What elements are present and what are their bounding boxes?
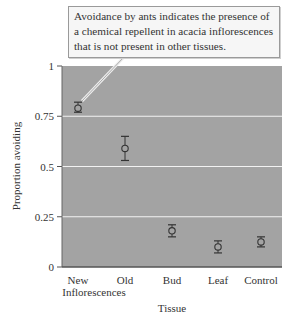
x-tick-label: Inflorescences — [62, 286, 126, 298]
x-tick-label: Old — [117, 274, 134, 286]
y-tick-label: 0 — [49, 261, 55, 273]
y-tick-label: 0.25 — [35, 211, 55, 223]
x-tick-label: New — [68, 274, 89, 286]
x-axis-title: Tissue — [158, 302, 186, 314]
annotation-callout: Avoidance by ants indicates the presence… — [68, 6, 280, 58]
y-tick-label: 1 — [49, 60, 55, 72]
x-tick-label: Bud — [163, 274, 182, 286]
y-tick-label: 0.75 — [35, 110, 55, 122]
x-tick-label: Leaf — [208, 274, 228, 286]
annotation-text: Avoidance by ants indicates the presence… — [74, 10, 273, 52]
y-axis-title: Proportion avoiding — [10, 121, 22, 210]
x-tick-label: Control — [244, 274, 278, 286]
y-tick-label: 0.5 — [40, 161, 54, 173]
